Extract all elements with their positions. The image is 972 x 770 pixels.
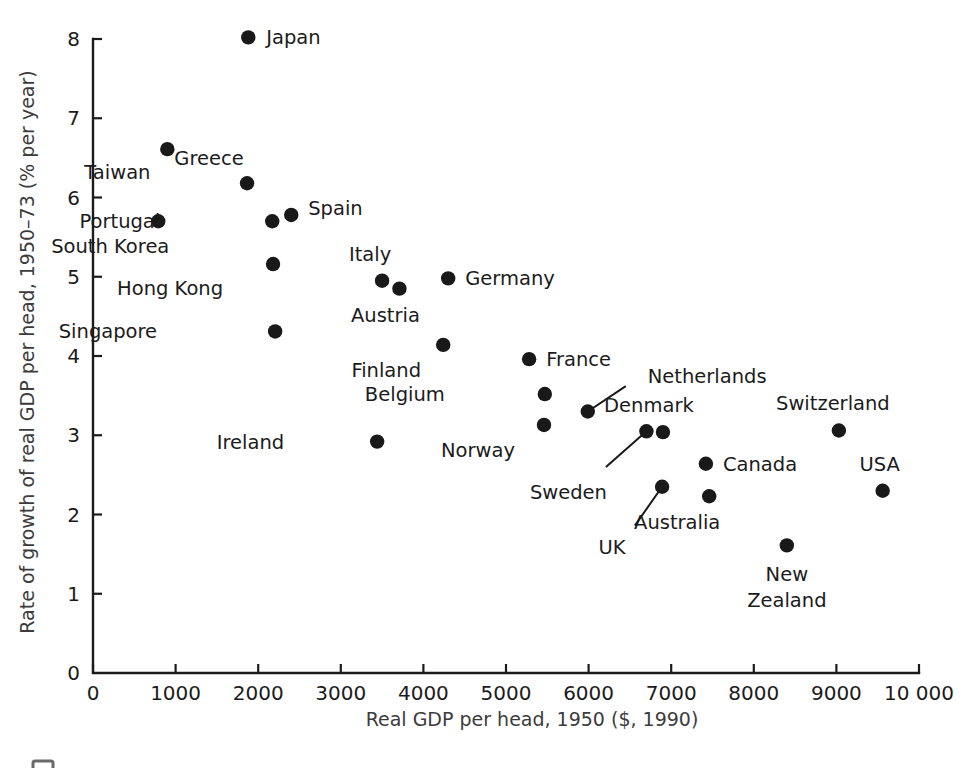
point-label-switzerland: Switzerland	[776, 392, 890, 415]
x-tick-label: 7000	[646, 681, 697, 705]
point-label-canada: Canada	[723, 453, 797, 476]
point-label-sweden: Sweden	[530, 481, 607, 504]
y-tick-label: 4	[67, 344, 80, 368]
x-tick-label: 6000	[563, 681, 614, 705]
point-label-usa: USA	[859, 453, 900, 476]
x-tick-label: 8000	[728, 681, 779, 705]
point-marker-australia	[702, 489, 716, 503]
x-tick-label: 5000	[481, 681, 532, 705]
point-marker-germany	[441, 271, 455, 285]
point-marker-austria	[392, 281, 406, 295]
y-tick-label: 1	[67, 582, 80, 606]
point-label-australia: Australia	[634, 511, 720, 534]
x-tick-label: 9000	[811, 681, 862, 705]
point-label-belgium: Belgium	[365, 383, 445, 406]
point-label-taiwan: Taiwan	[83, 161, 150, 184]
point-label-ireland: Ireland	[217, 431, 284, 454]
y-tick-label: 6	[67, 186, 80, 210]
y-tick-label: 7	[67, 106, 80, 130]
point-label-uk: UK	[599, 536, 627, 559]
point-marker-belgium	[538, 387, 552, 401]
point-marker-usa	[875, 484, 889, 498]
point-marker-canada	[699, 457, 713, 471]
y-tick-label: 2	[67, 503, 80, 527]
point-label-singapore: Singapore	[59, 320, 157, 343]
point-label-japan: Japan	[264, 26, 320, 49]
leader-line-sweden	[606, 431, 646, 467]
point-marker-uk	[655, 480, 669, 494]
point-marker-switzerland	[832, 423, 846, 437]
page-corner-mark	[33, 761, 53, 768]
point-marker-hong-kong	[266, 257, 280, 271]
point-marker-norway	[537, 418, 551, 432]
x-tick-label: 1000	[150, 681, 201, 705]
point-marker-ireland	[370, 434, 384, 448]
y-tick-label: 3	[67, 423, 80, 447]
point-label-south-korea: South Korea	[51, 235, 169, 258]
point-marker-netherlands	[581, 404, 595, 418]
point-label-finland: Finland	[351, 359, 421, 382]
point-marker-singapore	[268, 324, 282, 338]
point-marker-portugal	[265, 214, 279, 228]
point-label-portugal: Portugal	[79, 210, 160, 233]
chart-figure: 010002000300040005000600070008000900010 …	[0, 0, 972, 770]
y-tick-label: 0	[67, 661, 80, 685]
point-marker-italy	[375, 274, 389, 288]
point-label-netherlands: Netherlands	[648, 365, 767, 388]
point-marker-greece	[240, 176, 254, 190]
point-label-france: France	[546, 348, 611, 371]
point-marker-spain	[284, 208, 298, 222]
point-marker-finland	[436, 338, 450, 352]
x-axis-title: Real GDP per head, 1950 ($, 1990)	[366, 708, 699, 730]
point-marker-france	[522, 352, 536, 366]
data-point-labels: JapanTaiwanGreecePortugalSouth KoreaSpai…	[51, 26, 900, 612]
point-marker-new-zealand	[780, 538, 794, 552]
point-marker-denmark	[656, 425, 670, 439]
x-tick-label: 2000	[233, 681, 284, 705]
scatter-plot: 010002000300040005000600070008000900010 …	[0, 0, 972, 770]
point-label-germany: Germany	[465, 267, 555, 290]
point-label-spain: Spain	[308, 197, 362, 220]
y-axis-title: Rate of growth of real GDP per head, 195…	[16, 70, 38, 633]
point-marker-sweden	[639, 424, 653, 438]
x-tick-label: 3000	[315, 681, 366, 705]
x-tick-label: 10 000	[884, 681, 954, 705]
point-label-new-zealand: NewZealand	[747, 563, 826, 612]
y-tick-label: 8	[67, 27, 80, 51]
point-label-italy: Italy	[349, 243, 391, 266]
x-tick-label: 0	[87, 681, 100, 705]
y-tick-label: 5	[67, 265, 80, 289]
point-label-denmark: Denmark	[604, 394, 694, 417]
point-label-greece: Greece	[174, 147, 243, 170]
point-marker-taiwan	[160, 142, 174, 156]
point-label-austria: Austria	[351, 304, 420, 327]
x-tick-label: 4000	[398, 681, 449, 705]
point-label-norway: Norway	[441, 439, 515, 462]
point-marker-japan	[241, 30, 255, 44]
point-label-hong-kong: Hong Kong	[117, 277, 223, 300]
